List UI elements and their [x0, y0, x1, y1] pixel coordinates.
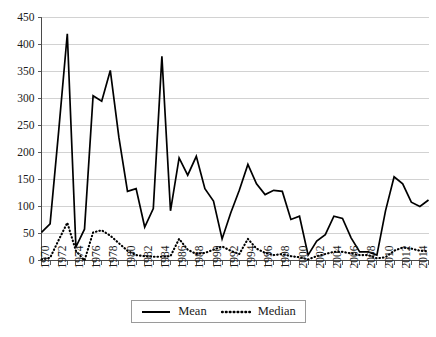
y-tick-label: 150 — [17, 173, 35, 185]
line-chart: 050100150200250300350400450 197019721974… — [0, 0, 436, 337]
series-line-mean — [42, 34, 429, 255]
x-tick-label: 2014 — [417, 245, 429, 268]
x-tick-label: 2008 — [365, 245, 377, 268]
x-tick-label: 1980 — [125, 245, 137, 268]
y-axis-tick-labels: 050100150200250300350400450 — [17, 11, 35, 266]
x-tick-label: 1986 — [176, 245, 188, 268]
y-tick-label: 350 — [17, 65, 35, 77]
legend-entry-median: Median — [221, 304, 296, 319]
x-tick-label: 1990 — [211, 245, 223, 268]
y-tick-label: 50 — [23, 227, 35, 239]
x-tick-label: 1984 — [159, 245, 171, 268]
chart-plot-area: 050100150200250300350400450 197019721974… — [0, 0, 436, 337]
x-tick-label: 2002 — [314, 245, 326, 268]
legend-label-median: Median — [258, 304, 296, 319]
y-tick-label: 400 — [17, 38, 35, 50]
x-tick-label: 2000 — [297, 245, 309, 268]
x-tick-label: 1972 — [56, 245, 68, 268]
x-tick-label: 2012 — [400, 245, 412, 268]
legend-entry-mean: Mean — [141, 304, 206, 319]
y-axis-ticks — [38, 18, 42, 261]
x-tick-label: 1982 — [142, 245, 154, 268]
y-tick-label: 450 — [17, 11, 35, 23]
x-tick-label: 1992 — [228, 245, 240, 268]
y-tick-label: 200 — [17, 146, 35, 158]
x-tick-label: 1976 — [90, 245, 102, 268]
x-tick-label: 2006 — [348, 245, 360, 268]
x-tick-label: 1970 — [39, 245, 51, 268]
y-tick-label: 0 — [29, 254, 35, 266]
x-axis-tick-labels: 1970197219741976197819801982198419861988… — [39, 245, 429, 268]
y-tick-label: 100 — [17, 200, 35, 212]
legend-swatch-solid-icon — [141, 307, 171, 317]
legend-label-mean: Mean — [178, 304, 206, 319]
x-tick-label: 1974 — [73, 245, 85, 268]
x-tick-label: 1978 — [107, 245, 119, 268]
y-tick-label: 300 — [17, 92, 35, 104]
x-tick-label: 1994 — [245, 245, 257, 268]
legend-swatch-dotted-icon — [221, 307, 251, 317]
x-tick-label: 1988 — [193, 245, 205, 268]
x-tick-label: 1998 — [279, 245, 291, 268]
x-tick-label: 1996 — [262, 245, 274, 268]
y-tick-label: 250 — [17, 119, 35, 131]
chart-legend: Mean Median — [131, 300, 306, 323]
x-tick-label: 2004 — [331, 245, 343, 268]
x-tick-label: 2010 — [383, 245, 395, 268]
